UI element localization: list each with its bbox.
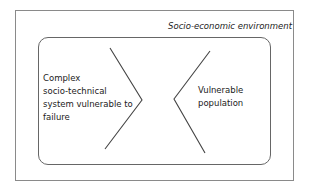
left-chevron: [105, 48, 142, 149]
chevron-connectors: [0, 0, 311, 189]
right-chevron: [174, 51, 210, 153]
